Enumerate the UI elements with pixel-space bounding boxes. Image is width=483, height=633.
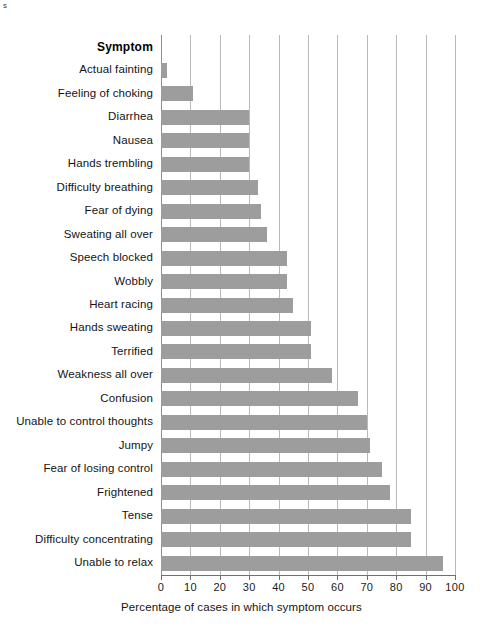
bar — [161, 391, 358, 406]
category-label: Diarrhea — [0, 110, 153, 122]
bar — [161, 556, 443, 571]
bar — [161, 368, 332, 383]
category-label: Actual fainting — [0, 63, 153, 75]
x-tick-label-20: 20 — [213, 581, 226, 593]
category-label: Heart racing — [0, 298, 153, 310]
x-tick-100 — [455, 575, 456, 580]
x-axis-title: Percentage of cases in which symptom occ… — [0, 601, 483, 613]
bar — [161, 86, 193, 101]
x-tick-0 — [161, 575, 162, 580]
x-tick-40 — [279, 575, 280, 580]
category-label: Fear of dying — [0, 204, 153, 216]
x-tick-label-100: 100 — [445, 581, 464, 593]
bar — [161, 321, 311, 336]
bar — [161, 415, 367, 430]
x-tick-10 — [190, 575, 191, 580]
bar — [161, 344, 311, 359]
horizontal-bar-chart: Symptom Actual faintingFeeling of chokin… — [0, 0, 483, 633]
bar — [161, 63, 167, 78]
bar — [161, 274, 287, 289]
x-tick-50 — [308, 575, 309, 580]
category-label: Fear of losing control — [0, 462, 153, 474]
category-label: Feeling of choking — [0, 87, 153, 99]
x-tick-label-80: 80 — [390, 581, 403, 593]
bar — [161, 462, 382, 477]
x-tick-label-50: 50 — [302, 581, 315, 593]
category-label: Speech blocked — [0, 251, 153, 263]
category-label: Nausea — [0, 134, 153, 146]
category-label: Confusion — [0, 392, 153, 404]
x-tick-90 — [426, 575, 427, 580]
x-tick-label-30: 30 — [243, 581, 256, 593]
category-label: Sweating all over — [0, 228, 153, 240]
x-tick-60 — [337, 575, 338, 580]
x-tick-label-40: 40 — [272, 581, 285, 593]
bar — [161, 485, 390, 500]
x-tick-80 — [396, 575, 397, 580]
bar — [161, 133, 249, 148]
category-label: Difficulty breathing — [0, 181, 153, 193]
category-label: Terrified — [0, 345, 153, 357]
x-tick-label-10: 10 — [184, 581, 197, 593]
category-label: Unable to control thoughts — [0, 415, 153, 427]
category-label: Jumpy — [0, 439, 153, 451]
category-label: Weakness all over — [0, 368, 153, 380]
category-label: Difficulty concentrating — [0, 533, 153, 545]
x-tick-label-90: 90 — [419, 581, 432, 593]
x-tick-label-70: 70 — [360, 581, 373, 593]
gridline-100 — [455, 35, 456, 575]
bar — [161, 438, 370, 453]
bars-layer — [161, 35, 455, 575]
bar — [161, 532, 411, 547]
x-tick-label-60: 60 — [331, 581, 344, 593]
bar — [161, 110, 249, 125]
x-tick-70 — [367, 575, 368, 580]
bar — [161, 251, 287, 266]
x-tick-20 — [220, 575, 221, 580]
category-label: Frightened — [0, 486, 153, 498]
bar — [161, 180, 258, 195]
bar — [161, 298, 293, 313]
x-tick-30 — [249, 575, 250, 580]
bar — [161, 227, 267, 242]
bar — [161, 204, 261, 219]
category-label: Hands sweating — [0, 321, 153, 333]
category-label: Wobbly — [0, 275, 153, 287]
x-tick-label-0: 0 — [158, 581, 164, 593]
category-label: Hands trembling — [0, 157, 153, 169]
category-label: Tense — [0, 509, 153, 521]
category-label: Unable to relax — [0, 556, 153, 568]
category-column-header: Symptom — [0, 40, 153, 54]
bar — [161, 509, 411, 524]
bar — [161, 157, 249, 172]
